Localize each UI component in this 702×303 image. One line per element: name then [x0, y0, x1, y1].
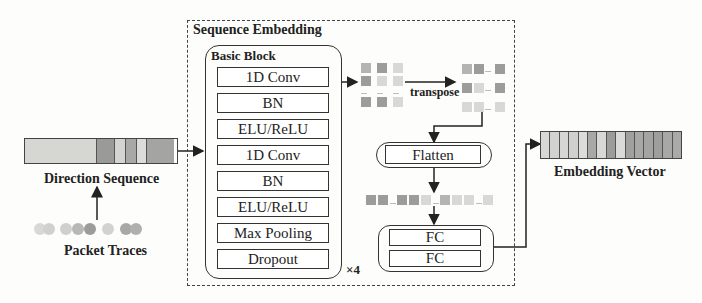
ellipsis: ...	[390, 198, 396, 206]
flat-cell	[397, 195, 407, 205]
direction-cell	[25, 139, 97, 163]
feature-cell	[462, 83, 472, 93]
feature-cell	[361, 76, 371, 86]
ellipsis: ...	[361, 88, 367, 96]
layer-bn: BN	[217, 93, 329, 113]
direction-cell	[115, 139, 126, 163]
embedding-cell	[579, 132, 588, 158]
direction-cell	[97, 139, 115, 163]
direction-sequence-label: Direction Sequence	[44, 171, 159, 187]
repeat-label: ×4	[346, 262, 360, 278]
feature-cell	[377, 63, 387, 73]
direction-cell	[137, 139, 147, 163]
embedding-cell	[607, 132, 616, 158]
packet-dot	[72, 223, 84, 235]
packet-dot	[43, 223, 55, 235]
embedding-cell	[644, 132, 653, 158]
flat-cell	[378, 195, 388, 205]
embedding-cell	[654, 132, 663, 158]
ellipsis: ...	[476, 198, 482, 206]
embedding-cell	[588, 132, 597, 158]
feature-cell	[393, 63, 403, 73]
feature-cell	[495, 64, 505, 74]
feature-cell	[377, 76, 387, 86]
feature-cell	[462, 102, 472, 112]
ellipsis: ...	[433, 198, 439, 206]
packet-dot	[84, 223, 96, 235]
basic-block-title: Basic Block	[211, 48, 276, 64]
embedding-vector-bar	[540, 131, 682, 159]
flat-cell	[440, 195, 450, 205]
feature-cell	[361, 97, 371, 107]
embedding-cell	[673, 132, 681, 158]
packet-dot	[60, 223, 72, 235]
direction-cell	[126, 139, 137, 163]
embedding-cell	[550, 132, 559, 158]
embedding-cell	[541, 132, 550, 158]
ellipsis: ...	[485, 104, 491, 112]
feature-cell	[474, 102, 484, 112]
sequence-embedding-title: Sequence Embedding	[193, 22, 322, 38]
transpose-label: transpose	[410, 85, 459, 100]
packet-dot	[102, 223, 114, 235]
layer-elu-relu: ELU/ReLU	[217, 197, 329, 217]
embedding-cell	[569, 132, 578, 158]
feature-cell	[393, 76, 403, 86]
embedding-cell	[635, 132, 644, 158]
feature-cell	[495, 83, 505, 93]
layer-1d-conv: 1D Conv	[217, 67, 329, 87]
flat-cell	[452, 195, 462, 205]
embedding-cell	[597, 132, 606, 158]
feature-cell	[474, 83, 484, 93]
flatten-layer: Flatten	[385, 145, 481, 164]
embedding-cell	[626, 132, 635, 158]
embedding-cell	[616, 132, 625, 158]
packet-traces-label: Packet Traces	[64, 243, 147, 259]
ellipsis: ...	[377, 88, 383, 96]
layer-bn: BN	[217, 171, 329, 191]
ellipsis: ...	[393, 88, 399, 96]
layer-max-pooling: Max Pooling	[217, 223, 329, 243]
embedding-cell	[560, 132, 569, 158]
feature-cell	[361, 63, 371, 73]
ellipsis: ...	[485, 85, 491, 93]
direction-cell	[147, 139, 174, 163]
feature-cell	[462, 64, 472, 74]
flat-cell	[464, 195, 474, 205]
layer-1d-conv: 1D Conv	[217, 145, 329, 165]
layer-dropout: Dropout	[217, 249, 329, 269]
feature-cell	[474, 64, 484, 74]
feature-cell	[393, 97, 403, 107]
layer-elu-relu: ELU/ReLU	[217, 119, 329, 139]
direction-sequence-bar	[24, 138, 178, 164]
packet-traces-dots	[34, 222, 174, 236]
ellipsis: ...	[485, 66, 491, 74]
packet-dot	[130, 223, 142, 235]
feature-cell	[495, 102, 505, 112]
embedding-cell	[663, 132, 672, 158]
flat-cell	[421, 195, 431, 205]
embedding-vector-label: Embedding Vector	[554, 164, 666, 180]
flat-cell	[409, 195, 419, 205]
flat-cell	[366, 195, 376, 205]
feature-cell	[377, 97, 387, 107]
fc-layer-1: FC	[389, 229, 481, 246]
fc-layer-2: FC	[389, 250, 481, 267]
flat-cell	[483, 195, 493, 205]
